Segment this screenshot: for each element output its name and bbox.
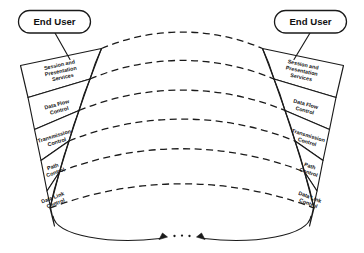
peer-arc-3 bbox=[69, 119, 295, 141]
fan-diagram-svg: Session and Presentation Services Data F… bbox=[0, 0, 364, 253]
end-user-left[interactable]: End User bbox=[19, 11, 91, 34]
peer-arc-1 bbox=[90, 60, 274, 79]
physical-link-arc-right bbox=[204, 216, 311, 240]
left-protocol-stack: Session and Presentation Services Data F… bbox=[21, 49, 102, 227]
physical-link-arrowhead-left bbox=[159, 233, 168, 240]
physical-link-arrowhead-right bbox=[197, 233, 206, 240]
diagram-root: Session and Presentation Services Data F… bbox=[0, 0, 364, 253]
physical-link-ellipsis bbox=[173, 234, 190, 237]
physical-link-connector bbox=[53, 216, 311, 240]
peer-arc-4 bbox=[60, 149, 305, 172]
physical-link-arc-left bbox=[53, 216, 160, 240]
peer-arc-top bbox=[102, 32, 263, 48]
connector-right-end-user bbox=[294, 33, 310, 60]
end-user-right[interactable]: End User bbox=[275, 11, 347, 34]
right-protocol-stack: Session and Presentation Services Data F… bbox=[263, 49, 344, 227]
peer-arc-bottom bbox=[50, 184, 314, 208]
end-user-left-label: End User bbox=[33, 16, 75, 27]
connector-left-end-user bbox=[55, 33, 70, 60]
peer-arc-2 bbox=[79, 90, 285, 110]
end-user-right-label: End User bbox=[289, 16, 331, 27]
